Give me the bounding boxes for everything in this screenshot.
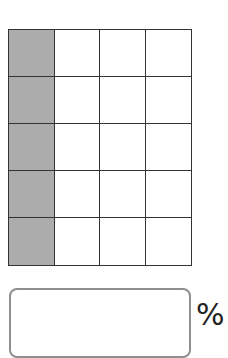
- grid-cell: [55, 30, 101, 77]
- grid-cell: [100, 124, 146, 171]
- grid-cell: [146, 77, 192, 124]
- grid-cell-shaded: [9, 171, 55, 218]
- grid-cell: [146, 124, 192, 171]
- grid-cell-shaded: [9, 30, 55, 77]
- grid-cell-shaded: [9, 77, 55, 124]
- grid-cell: [100, 30, 146, 77]
- grid-cell: [100, 171, 146, 218]
- grid-cell: [55, 218, 101, 265]
- answer-input-box[interactable]: [9, 288, 191, 358]
- grid-cell: [55, 77, 101, 124]
- fraction-grid: [8, 29, 192, 266]
- grid-cell-shaded: [9, 218, 55, 265]
- grid-cell: [100, 218, 146, 265]
- percent-sign: %: [196, 300, 225, 330]
- grid-cell: [55, 171, 101, 218]
- grid-cell: [100, 77, 146, 124]
- grid-cell-shaded: [9, 124, 55, 171]
- grid-cell: [146, 218, 192, 265]
- grid-cell: [55, 124, 101, 171]
- grid-cell: [146, 30, 192, 77]
- grid-cell: [146, 171, 192, 218]
